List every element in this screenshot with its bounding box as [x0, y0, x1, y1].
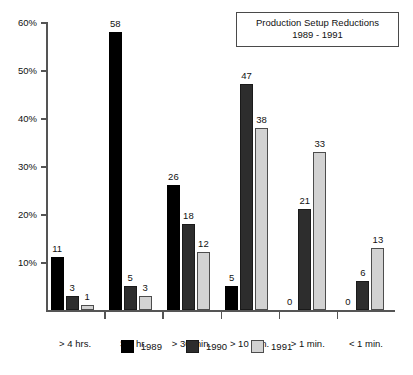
- y-axis-tick-label: 60%: [18, 17, 37, 28]
- bar-value-label: 38: [256, 114, 267, 125]
- legend-label: 1989: [141, 341, 162, 352]
- x-axis-group-tick: [337, 312, 339, 319]
- bar-1990-3: [240, 84, 253, 310]
- y-axis-tick: [41, 118, 46, 120]
- x-axis-group-tick: [279, 312, 281, 319]
- y-axis-tick-label: 30%: [18, 161, 37, 172]
- y-axis-tick-label: 50%: [18, 65, 37, 76]
- legend-item-1989: 1989: [121, 340, 162, 353]
- bar-value-label: 11: [52, 243, 62, 254]
- y-axis-tick: [41, 22, 46, 24]
- y-axis-tick-label: 10%: [18, 257, 37, 268]
- bar-1991-0: [81, 305, 94, 310]
- bar-value-label: 58: [110, 18, 121, 29]
- bar-value-label: 26: [168, 171, 179, 182]
- bar-value-label: 1: [84, 291, 89, 302]
- bar-1989-0: [51, 257, 64, 310]
- y-axis-tick: [41, 214, 46, 216]
- legend-label: 1991: [271, 341, 292, 352]
- bar-value-label: 5: [128, 272, 133, 283]
- bar-1990-2: [182, 224, 195, 310]
- y-axis-tick: [41, 70, 46, 72]
- legend-swatch-1990: [186, 340, 199, 353]
- x-axis-group-tick: [162, 312, 164, 319]
- bar-value-label: 18: [183, 210, 194, 221]
- bar-1991-4: [313, 152, 326, 310]
- bar-1991-2: [197, 252, 210, 310]
- bar-value-label: 13: [373, 234, 384, 245]
- bar-value-label: 0: [345, 296, 350, 307]
- x-axis-group-tick: [221, 312, 223, 319]
- plot-area: 1131585326181254738021330613 > 4 hrs.> 1…: [46, 22, 395, 310]
- y-axis-tick: [41, 166, 46, 168]
- bar-1991-5: [371, 248, 384, 310]
- bar-value-label: 3: [69, 282, 74, 293]
- y-axis-line: [46, 22, 48, 310]
- bar-value-label: 3: [143, 282, 148, 293]
- legend-swatch-1991: [251, 340, 264, 353]
- bar-1989-3: [225, 286, 238, 310]
- legend-item-1990: 1990: [186, 340, 227, 353]
- legend-item-1991: 1991: [251, 340, 292, 353]
- bar-1990-1: [124, 286, 137, 310]
- bar-1989-1: [109, 32, 122, 310]
- bar-1990-0: [66, 296, 79, 310]
- chart-legend: 198919901991: [0, 340, 413, 353]
- bar-value-label: 21: [299, 195, 310, 206]
- y-axis-tick: [41, 262, 46, 264]
- bar-1989-2: [167, 185, 180, 310]
- bar-value-label: 47: [241, 70, 252, 81]
- legend-swatch-1989: [121, 340, 134, 353]
- bar-value-label: 6: [360, 267, 365, 278]
- bar-chart: Production Setup Reductions 1989 - 1991 …: [0, 0, 413, 375]
- bar-value-label: 12: [198, 238, 209, 249]
- bar-value-label: 5: [229, 272, 234, 283]
- bar-value-label: 0: [287, 296, 292, 307]
- bar-value-label: 33: [314, 138, 325, 149]
- bar-1991-3: [255, 128, 268, 310]
- x-axis-group-tick: [104, 312, 106, 319]
- legend-label: 1990: [206, 341, 227, 352]
- y-axis-tick-label: 40%: [18, 113, 37, 124]
- y-axis-tick-label: 20%: [18, 209, 37, 220]
- bar-1990-5: [356, 281, 369, 310]
- bar-1990-4: [298, 209, 311, 310]
- bar-1991-1: [139, 296, 152, 310]
